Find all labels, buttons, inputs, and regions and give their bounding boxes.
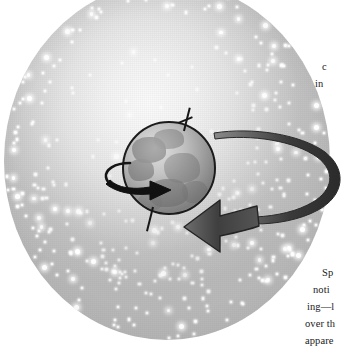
- margin-text-top: c in: [305, 58, 351, 92]
- earth-globe: [122, 121, 216, 215]
- margin-line: over th: [305, 315, 351, 332]
- margin-line: in: [305, 75, 351, 92]
- margin-line: noti: [305, 281, 351, 298]
- margin-line: Sp: [305, 264, 351, 281]
- margin-line: ing—l: [305, 298, 351, 315]
- margin-line: appare: [305, 332, 351, 349]
- margin-text-bottom: Sp noti ing—l over th appare: [305, 264, 351, 349]
- margin-line: c: [305, 58, 351, 75]
- figure-page: c in Sp noti ing—l over th appare: [0, 0, 351, 360]
- earth-shading: [124, 123, 214, 213]
